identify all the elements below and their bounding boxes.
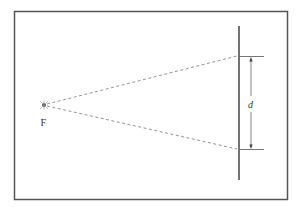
upper-ray (47, 56, 237, 104)
point-label-f: F (41, 117, 47, 128)
distance-label-d: d (248, 99, 254, 110)
diagram-frame (15, 12, 288, 200)
source-point-icon (40, 100, 48, 110)
lower-ray (47, 106, 237, 149)
diagram-canvas: F d (0, 0, 301, 207)
